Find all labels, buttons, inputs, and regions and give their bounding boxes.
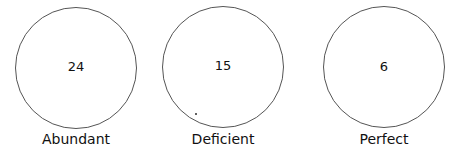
value-abundant: 24 — [46, 59, 106, 74]
value-deficient: 15 — [193, 58, 253, 73]
label-abundant: Abundant — [16, 131, 136, 147]
label-deficient: Deficient — [163, 131, 283, 147]
value-perfect: 6 — [354, 59, 414, 74]
stray-dot — [195, 113, 197, 115]
label-perfect: Perfect — [324, 131, 444, 147]
